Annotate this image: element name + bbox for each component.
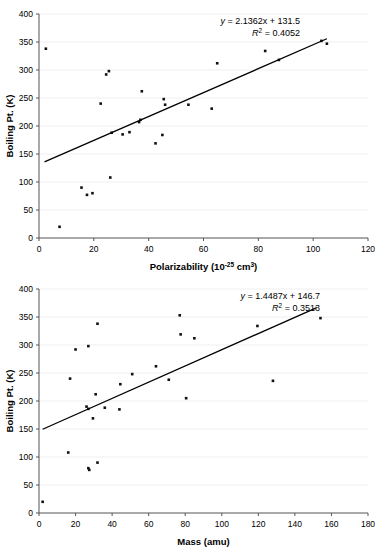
x-tick-label: 0 [37,244,42,254]
data-point [69,377,72,380]
data-point [264,50,267,53]
y-tick-label: 100 [19,452,33,462]
x-tick-label: 160 [324,519,338,529]
data-point [92,417,95,420]
y-tick-label: 250 [19,368,33,378]
y-tick-label: 150 [19,149,33,159]
x-tick-label: 180 [361,519,375,529]
data-point [109,176,112,179]
chart-mass: 050100150200250300350400 020406080100120… [0,275,386,550]
polarizability-scatter-svg: 050100150200250300350400 020406080100120… [0,0,386,275]
data-point [96,461,99,464]
y-axis-title: Boiling Pt. (K) [4,370,15,433]
y-tick-label: 50 [24,480,34,490]
data-point [121,133,124,136]
data-point [272,380,275,383]
trendline [44,39,326,162]
data-points [41,314,321,503]
data-point [67,451,70,454]
data-point [86,194,89,197]
data-point [178,314,181,317]
y-axis-ticks: 050100150200250300350400 [19,9,39,243]
data-point [161,134,164,137]
y-tick-label: 150 [19,424,33,434]
y-axis-title: Boiling Pt. (K) [4,95,15,158]
data-point [87,345,90,348]
y-tick-label: 350 [19,312,33,322]
data-point [99,102,102,105]
y-tick-label: 0 [28,508,33,518]
y-tick-label: 50 [24,205,34,215]
regression-equation-label: y = 2.1362x + 131.5 [219,16,300,26]
x-tick-label: 40 [144,244,154,254]
data-point [154,142,157,145]
x-axis-ticks: 020406080100120140160180 [37,513,376,529]
data-point [216,62,219,65]
r-squared-label: R2 = 0.4052 [252,27,300,39]
trendline [43,308,317,430]
x-tick-label: 140 [288,519,302,529]
data-point [45,47,48,50]
data-point [108,70,111,73]
y-tick-label: 400 [19,9,33,19]
data-point [185,397,188,400]
x-tick-label: 80 [254,244,264,254]
data-point [141,90,144,93]
y-tick-label: 0 [28,233,33,243]
data-point [187,103,190,106]
data-point [58,226,61,229]
gridlines-horizontal [39,289,368,485]
y-tick-label: 200 [19,121,33,131]
data-point [210,107,213,110]
x-tick-label: 100 [306,244,320,254]
x-axis-ticks: 020406080100120 [37,238,376,254]
data-point [167,378,170,381]
regression-equation-label: y = 1.4487x + 146.7 [239,291,320,301]
data-point [193,337,196,340]
data-point [326,42,329,45]
mass-scatter-svg: 050100150200250300350400 020406080100120… [0,275,386,550]
data-point [85,405,88,408]
data-point [41,501,44,504]
y-tick-label: 300 [19,340,33,350]
y-axis-ticks: 050100150200250300350400 [19,284,39,518]
data-point [118,408,121,411]
y-tick-label: 400 [19,284,33,294]
data-point [256,325,259,328]
data-point [88,469,91,472]
data-point [164,103,167,106]
data-point [94,393,97,396]
x-tick-label: 40 [107,519,117,529]
x-tick-label: 80 [180,519,190,529]
data-point [80,186,83,189]
data-point [104,406,107,409]
data-point [179,333,182,336]
r-squared-label: R2 = 0.3513 [272,302,320,314]
chart-polarizability: 050100150200250300350400 020406080100120… [0,0,386,275]
data-point [96,322,99,325]
x-tick-label: 0 [37,519,42,529]
y-tick-label: 250 [19,93,33,103]
x-tick-label: 120 [361,244,375,254]
gridlines-horizontal [39,14,368,210]
data-point [162,98,165,101]
data-point [319,317,322,320]
data-point [155,365,158,368]
data-point [119,383,122,386]
data-point [74,348,77,351]
x-tick-label: 20 [71,519,81,529]
y-tick-label: 200 [19,396,33,406]
x-axis-title: Polarizability (10-25 cm3) [150,261,258,273]
x-axis-title: Mass (amu) [177,536,229,547]
x-tick-label: 120 [251,519,265,529]
y-tick-label: 100 [19,177,33,187]
x-tick-label: 100 [215,519,229,529]
data-point [91,192,94,195]
x-tick-label: 20 [89,244,99,254]
data-point [105,73,108,76]
x-tick-label: 60 [144,519,154,529]
data-point [128,131,131,134]
data-point [131,373,134,376]
data-points [45,40,329,229]
x-tick-label: 60 [199,244,209,254]
